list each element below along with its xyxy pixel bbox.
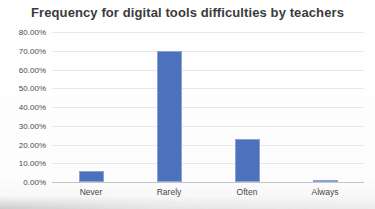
chart-title: Frequency for digital tools difficulties… xyxy=(0,5,375,20)
y-tick-label: 0.00% xyxy=(0,178,46,187)
chart: Frequency for digital tools difficulties… xyxy=(0,0,375,209)
gridline xyxy=(52,163,364,164)
bar-never xyxy=(79,171,104,182)
gridline xyxy=(52,145,364,146)
y-tick-label: 50.00% xyxy=(0,84,46,93)
photo-shadow xyxy=(0,196,375,209)
gridline xyxy=(52,51,364,52)
y-tick-label: 20.00% xyxy=(0,140,46,149)
gridline xyxy=(52,32,364,33)
gridline xyxy=(52,126,364,127)
y-tick-label: 30.00% xyxy=(0,121,46,130)
x-axis-line xyxy=(52,182,364,183)
y-tick-label: 10.00% xyxy=(0,159,46,168)
x-category-label: Rarely xyxy=(134,187,204,197)
x-category-label: Never xyxy=(56,187,126,197)
bar-always xyxy=(313,180,338,182)
y-tick-label: 70.00% xyxy=(0,46,46,55)
gridline xyxy=(52,88,364,89)
y-tick-label: 80.00% xyxy=(0,28,46,37)
y-tick-label: 40.00% xyxy=(0,103,46,112)
bar-rarely xyxy=(157,51,182,182)
gridline xyxy=(52,70,364,71)
x-category-label: Often xyxy=(212,187,282,197)
x-category-label: Always xyxy=(290,187,360,197)
bar-often xyxy=(235,139,260,182)
gridline xyxy=(52,107,364,108)
y-tick-label: 60.00% xyxy=(0,65,46,74)
plot-area xyxy=(52,32,364,182)
